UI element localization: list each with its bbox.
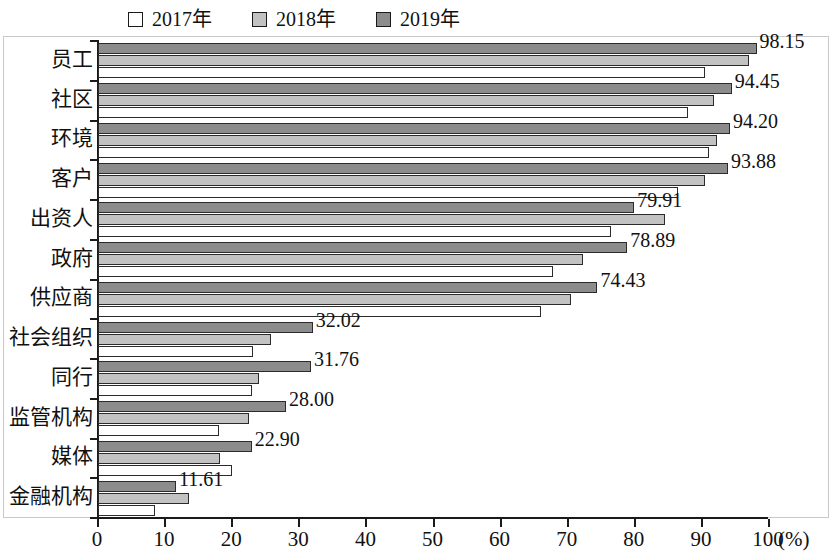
bar-value-label: 98.15	[760, 31, 805, 51]
bar-2019-社区	[98, 83, 732, 94]
bar-2017-出资人	[98, 226, 611, 237]
bar-2018-员工	[98, 55, 749, 66]
bar-2019-供应商	[98, 282, 597, 293]
bar-2019-客户	[98, 163, 728, 174]
bar-value-label: 79.91	[637, 190, 682, 210]
bar-value-label: 74.43	[600, 270, 645, 290]
bar-2018-客户	[98, 175, 705, 186]
bar-value-label: 32.02	[316, 310, 361, 330]
bar-2018-媒体	[98, 453, 220, 464]
bar-2019-监管机构	[98, 401, 286, 412]
bar-2017-员工	[98, 67, 705, 78]
bar-2018-政府	[98, 254, 583, 265]
bar-2017-同行	[98, 385, 252, 396]
bar-2018-监管机构	[98, 413, 249, 424]
bar-2017-客户	[98, 187, 678, 198]
bar-2017-社区	[98, 107, 688, 118]
bar-2018-金融机构	[98, 493, 189, 504]
bar-chart: 2017年 2018年 2019年 0102030405060708090100…	[0, 0, 832, 555]
bar-series-layer: 98.1594.4594.2093.8879.9178.8974.4332.02…	[0, 0, 832, 555]
bar-2018-出资人	[98, 214, 665, 225]
bar-2019-出资人	[98, 202, 634, 213]
bar-2018-社会组织	[98, 334, 271, 345]
bar-2018-社区	[98, 95, 714, 106]
bar-2019-同行	[98, 361, 311, 372]
bar-2018-环境	[98, 135, 717, 146]
bar-2019-媒体	[98, 441, 252, 452]
bar-2019-环境	[98, 123, 730, 134]
bar-value-label: 93.88	[731, 151, 776, 171]
bar-value-label: 78.89	[630, 230, 675, 250]
bar-value-label: 22.90	[255, 429, 300, 449]
bar-2019-金融机构	[98, 481, 176, 492]
bar-2017-政府	[98, 266, 553, 277]
bar-2017-金融机构	[98, 505, 155, 516]
bar-2017-环境	[98, 147, 709, 158]
bar-2017-社会组织	[98, 346, 253, 357]
bar-2019-员工	[98, 43, 757, 54]
bar-2017-监管机构	[98, 425, 219, 436]
bar-value-label: 94.45	[735, 71, 780, 91]
bar-value-label: 28.00	[289, 389, 334, 409]
bar-2018-供应商	[98, 294, 571, 305]
bar-2018-同行	[98, 373, 259, 384]
bar-2019-政府	[98, 242, 627, 253]
bar-value-label: 31.76	[314, 349, 359, 369]
bar-2019-社会组织	[98, 322, 313, 333]
bar-value-label: 11.61	[179, 469, 223, 489]
bar-value-label: 94.20	[733, 111, 778, 131]
